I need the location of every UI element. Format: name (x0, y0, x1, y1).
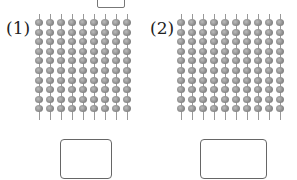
bead (221, 48, 229, 55)
bead (35, 77, 43, 84)
bead (112, 86, 120, 93)
bead (210, 105, 218, 112)
bead (243, 77, 251, 84)
bead (177, 77, 185, 84)
bead (35, 105, 43, 112)
bead (243, 105, 251, 112)
bead (123, 105, 131, 112)
answer-box-2[interactable] (200, 139, 267, 179)
bead (79, 29, 87, 36)
bead (210, 38, 218, 45)
bead (221, 38, 229, 45)
bead (221, 29, 229, 36)
bead (79, 38, 87, 45)
bead (265, 48, 273, 55)
bead (265, 86, 273, 93)
bead (243, 57, 251, 64)
problem-2-label: (2) (150, 18, 174, 38)
bead (177, 57, 185, 64)
bead (123, 86, 131, 93)
bead (276, 57, 284, 64)
bead (68, 38, 76, 45)
bead (79, 67, 87, 74)
bead (112, 96, 120, 103)
bead (210, 77, 218, 84)
bead (276, 67, 284, 74)
bead (188, 48, 196, 55)
bead (57, 96, 65, 103)
bead (232, 105, 240, 112)
bead (232, 57, 240, 64)
bead (221, 57, 229, 64)
bead (35, 86, 43, 93)
bead (46, 57, 54, 64)
bead (35, 57, 43, 64)
bead (101, 29, 109, 36)
bead (35, 67, 43, 74)
bead (123, 67, 131, 74)
bead (210, 67, 218, 74)
bead (177, 38, 185, 45)
bead (177, 96, 185, 103)
bead (57, 19, 65, 26)
bead (210, 57, 218, 64)
bead (112, 29, 120, 36)
bead (112, 57, 120, 64)
bead (101, 67, 109, 74)
bead (57, 67, 65, 74)
bead (232, 77, 240, 84)
bead (68, 29, 76, 36)
bead (90, 86, 98, 93)
bead (243, 86, 251, 93)
bead (221, 67, 229, 74)
bead (68, 105, 76, 112)
bead (35, 29, 43, 36)
bead (112, 77, 120, 84)
bead (90, 38, 98, 45)
bead (254, 67, 262, 74)
bead (265, 96, 273, 103)
bead (232, 86, 240, 93)
bead (243, 67, 251, 74)
bead (243, 29, 251, 36)
bead (254, 48, 262, 55)
bead (221, 77, 229, 84)
problem-1-label: (1) (6, 18, 30, 38)
bead (210, 48, 218, 55)
bead (46, 38, 54, 45)
bead (123, 38, 131, 45)
bead (35, 96, 43, 103)
bead (90, 96, 98, 103)
bead (57, 38, 65, 45)
bead (254, 38, 262, 45)
bead (177, 19, 185, 26)
bead (199, 105, 207, 112)
bead (254, 29, 262, 36)
bead (221, 105, 229, 112)
bead (276, 77, 284, 84)
bead (112, 105, 120, 112)
bead (35, 48, 43, 55)
bead (276, 19, 284, 26)
bead (265, 67, 273, 74)
bead (254, 86, 262, 93)
bead (276, 48, 284, 55)
bead (112, 67, 120, 74)
bead (35, 38, 43, 45)
bead (46, 19, 54, 26)
bead (35, 19, 43, 26)
bead (79, 77, 87, 84)
bead (177, 48, 185, 55)
bead (46, 29, 54, 36)
bead (79, 86, 87, 93)
bead (221, 96, 229, 103)
bead (68, 19, 76, 26)
answer-box-1[interactable] (60, 139, 112, 179)
bead (276, 96, 284, 103)
bead (46, 67, 54, 74)
bead (101, 57, 109, 64)
bead (188, 29, 196, 36)
bead (232, 96, 240, 103)
bead (68, 48, 76, 55)
bead (188, 38, 196, 45)
